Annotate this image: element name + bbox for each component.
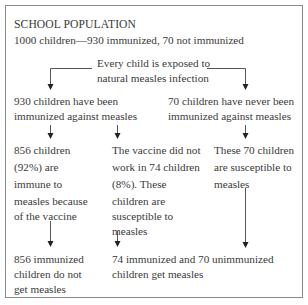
exposure-line-2: natural measles infection: [97, 71, 209, 87]
diagram-title: SCHOOL POPULATION: [14, 17, 136, 33]
arrowhead-icon: [243, 84, 249, 90]
vaccine-failed-line-5: susceptible to: [112, 209, 173, 225]
susceptible-line-2: are susceptible to: [214, 160, 292, 176]
vaccine-failed-line-3: (8%). These: [112, 177, 166, 193]
outcome-infected-line-1: 74 immunized and 70 unimmunized: [112, 252, 274, 268]
immunized-line-2: immunized against measles: [14, 109, 137, 125]
immune-line-3: immune to: [14, 177, 62, 193]
outcome-protected-line-1: 856 immunized: [14, 252, 84, 268]
arrowhead-icon: [243, 242, 249, 248]
vaccine-failed-line-1: The vaccine did not: [112, 143, 201, 159]
vaccine-failed-line-6: measles: [112, 224, 147, 240]
immune-line-2: (92%) are: [14, 160, 58, 176]
outcome-infected-line-2: children get measles: [112, 267, 203, 283]
vaccine-failed-line-4: children are: [112, 194, 165, 210]
exposure-line-1: Every child is exposed to: [97, 56, 210, 72]
immune-line-5: of the vaccine: [14, 209, 77, 225]
immune-line-1: 856 children: [14, 143, 70, 159]
arrowhead-icon: [48, 133, 54, 139]
immunized-line-1: 930 children have been: [14, 94, 118, 110]
susceptible-line-1: These 70 children: [214, 143, 294, 159]
arrowhead-icon: [115, 133, 121, 139]
outcome-protected-line-3: get measles: [14, 282, 66, 298]
arrow-exposure-to-immunized: [51, 69, 93, 85]
not-immunized-line-1: 70 children have never been: [168, 94, 294, 110]
arrowhead-icon: [48, 84, 54, 90]
outcome-protected-line-2: children do not: [14, 267, 82, 283]
population-summary: 1000 children—930 immunized, 70 not immu…: [14, 33, 244, 49]
arrowhead-icon: [115, 241, 121, 247]
vaccine-failed-line-2: work in 74 children: [112, 160, 200, 176]
arrowhead-icon: [48, 241, 54, 247]
arrowhead-icon: [243, 133, 249, 139]
immune-line-4: measles because: [14, 194, 88, 210]
not-immunized-line-2: immunized against measles: [168, 109, 291, 125]
arrow-exposure-to-not-immunized: [207, 69, 246, 85]
susceptible-line-3: measles: [214, 177, 249, 193]
